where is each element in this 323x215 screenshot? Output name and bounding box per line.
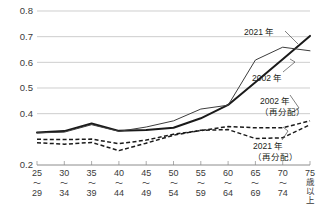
annotation-ann-2002-redist: （再分配） — [260, 107, 305, 117]
y-axis-tick-labels: 0.20.40.50.60.70.8 — [20, 5, 33, 170]
x-tick-label-group: 25〜29 — [32, 168, 42, 198]
x-tick-label-top: 65 — [250, 168, 260, 178]
x-tick-label-group: 55〜59 — [196, 168, 206, 198]
x-tick-label-group: 45〜49 — [141, 168, 151, 198]
x-tick-label-bottom: 64 — [223, 188, 233, 198]
x-tick-label-group: 60〜64 — [223, 168, 233, 198]
x-tick-label-group: 75歳以上 — [305, 168, 315, 205]
series-line-2021年 — [37, 36, 310, 132]
x-tick-range-wave: 〜 — [33, 179, 41, 188]
x-tick-label-top: 30 — [59, 168, 69, 178]
y-tick-label: 0.4 — [20, 108, 33, 119]
leader-line — [285, 31, 298, 44]
x-tick-range-wave: 〜 — [279, 179, 287, 188]
x-tick-range-wave: 〜 — [142, 179, 150, 188]
annotation-ann-2021-redist: 2021 年 — [253, 141, 283, 151]
x-tick-range-wave: 〜 — [115, 179, 123, 188]
x-tick-label-top: 50 — [168, 168, 178, 178]
x-tick-label-bottom: 54 — [168, 188, 178, 198]
leader-line — [282, 127, 288, 140]
x-tick-range-wave: 〜 — [197, 179, 205, 188]
x-tick-label-bottom: 49 — [141, 188, 151, 198]
x-tick-range-wave: 〜 — [251, 179, 259, 188]
x-tick-label-vertical-char: 上 — [306, 195, 315, 205]
annotation-ann-2002-redist: 2002 年 — [260, 96, 290, 106]
y-tick-label: 0.6 — [20, 57, 33, 68]
line-chart: 0.20.40.50.60.70.8 25〜2930〜3435〜3940〜444… — [0, 0, 323, 215]
x-tick-label-bottom: 39 — [87, 188, 97, 198]
annotation-ann-2002: 2002 年 — [252, 73, 282, 83]
x-tick-label-top: 40 — [114, 168, 124, 178]
x-tick-range-wave: 〜 — [88, 179, 96, 188]
x-tick-label-group: 30〜34 — [59, 168, 69, 198]
x-tick-label-top: 60 — [223, 168, 233, 178]
x-tick-label-group: 40〜44 — [114, 168, 124, 198]
x-tick-label-group: 35〜39 — [87, 168, 97, 198]
x-tick-label-bottom: 69 — [250, 188, 260, 198]
annotation-ann-2021: 2021 年 — [244, 27, 274, 37]
x-tick-label-group: 50〜54 — [168, 168, 178, 198]
series-lines — [37, 36, 310, 151]
x-tick-range-wave: 〜 — [170, 179, 178, 188]
y-tick-label: 0.8 — [20, 5, 33, 16]
x-tick-label-group: 65〜69 — [250, 168, 260, 198]
series-line-2002年 — [37, 47, 310, 133]
x-tick-label-top: 35 — [87, 168, 97, 178]
y-tick-label: 0.5 — [20, 82, 33, 93]
x-tick-label-top: 25 — [32, 168, 42, 178]
leader-line — [283, 59, 295, 72]
x-tick-label-bottom: 74 — [278, 188, 288, 198]
x-tick-label-bottom: 59 — [196, 188, 206, 198]
x-tick-label-top: 45 — [141, 168, 151, 178]
x-axis-tick-labels: 25〜2930〜3435〜3940〜4445〜4950〜5455〜5960〜64… — [32, 168, 315, 205]
x-tick-range-wave: 〜 — [224, 179, 232, 188]
x-tick-label-bottom: 34 — [59, 188, 69, 198]
x-tick-range-wave: 〜 — [60, 179, 68, 188]
chart-container: 0.20.40.50.60.70.8 25〜2930〜3435〜3940〜444… — [0, 0, 323, 215]
x-tick-label-top: 55 — [196, 168, 206, 178]
x-tick-label-group: 70〜74 — [278, 168, 288, 198]
x-tick-label-top: 70 — [278, 168, 288, 178]
y-tick-label: 0.7 — [20, 31, 33, 42]
annotation-ann-2021-redist: （再分配） — [253, 152, 298, 162]
x-tick-label-bottom: 29 — [32, 188, 42, 198]
x-tick-label-bottom: 44 — [114, 188, 124, 198]
